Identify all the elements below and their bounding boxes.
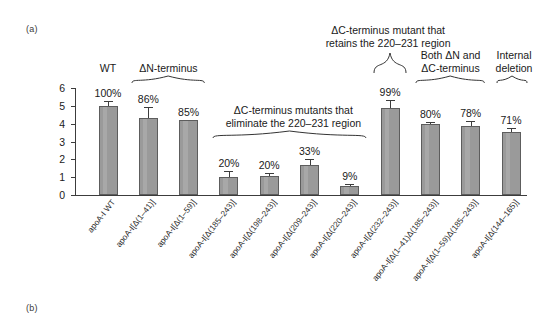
error-bar-cap [386,100,395,101]
annotation-internal-deletion-line2: deletion [496,62,533,74]
annotation-n-terminus-line1: ΔN-terminus [139,62,197,74]
annotation-internal-deletion-line1: Internal [496,49,531,61]
y-axis-tick: 4 [71,124,75,125]
annotation-n-terminus: ΔN-terminus [139,62,197,75]
bar-value-label: 100% [95,87,122,99]
annotation-both-n-and-c-line1: Both ΔN and [421,49,481,61]
error-bar-cap [224,171,233,172]
x-axis-tick-label: apoA-I[Δ(1–59)] [155,198,198,249]
error-bar [148,107,149,118]
y-axis-tick-label: 4 [59,118,65,129]
y-axis-tick-label: 2 [59,154,65,165]
y-axis-tick: 2 [71,159,75,160]
y-axis-tick: 5 [71,106,75,107]
group-brace [132,76,204,85]
annotation-both-n-and-c-line2: ΔC-terminus [421,62,479,74]
y-axis-tick-label: 1 [59,172,65,183]
group-brace [213,131,366,140]
bar [300,165,319,195]
y-axis-tick-label: 0 [59,190,65,201]
panel-label-b: (b) [26,303,38,313]
annotation-wt: WT [100,62,116,75]
bar-value-label: 99% [380,86,401,98]
y-axis-tick: 0 [71,195,75,196]
y-axis-tick-label: 3 [59,136,65,147]
annotation-internal-deletion: Internaldeletion [496,49,533,74]
bar [461,126,480,195]
annotation-c-terminus-eliminate-line1: ΔC-terminus mutants that [234,104,353,116]
bar-value-label: 20% [218,157,239,169]
bar-value-label: 85% [178,106,199,118]
bar [381,108,400,195]
bar [219,177,238,195]
bar-value-label: 86% [138,93,159,105]
y-axis-tick: 6 [71,88,75,89]
bar [260,176,279,195]
y-axis-tick-label: 5 [59,101,65,112]
annotation-wt-line1: WT [100,62,116,74]
annotation-c-terminus-eliminate-line2: eliminate the 220–231 region [226,117,361,129]
x-axis-tick-label: apoA-I WT [86,198,117,234]
error-bar-cap [265,173,274,174]
annotation-c-terminus-retains-line2: retains the 220–231 region [326,37,451,49]
error-bar [390,100,391,108]
error-bar-cap [104,101,113,102]
x-axis-tick-label: apoA-I[Δ(1–41)] [115,198,158,249]
bar-value-label: 33% [299,145,320,157]
group-brace [374,53,406,73]
annotation-c-terminus-retains-line1: ΔC-terminus mutant that [331,24,445,36]
bar [139,118,158,195]
bar-value-label: 9% [342,170,357,182]
bar [502,132,521,195]
y-axis-tick-label: 6 [59,83,65,94]
error-bar-cap [507,128,516,129]
y-axis-tick: 1 [71,177,75,178]
bar-value-label: 78% [460,107,481,119]
annotation-c-terminus-retains: ΔC-terminus mutant thatretains the 220–2… [326,24,451,49]
x-axis-line [75,195,527,196]
error-bar-cap [305,159,314,160]
bar-value-label: 71% [500,114,521,126]
error-bar-cap [466,121,475,122]
panel-label-a: (a) [26,24,38,34]
bar [99,106,118,195]
bar [179,120,198,195]
y-axis-tick: 3 [71,142,75,143]
group-brace [416,76,484,85]
bar [340,186,359,195]
y-axis-line [75,88,76,195]
error-bar-cap [144,107,153,108]
bar-value-label: 80% [420,108,441,120]
error-bar-cap [345,184,354,185]
annotation-c-terminus-eliminate: ΔC-terminus mutants thateliminate the 22… [226,104,361,129]
annotation-both-n-and-c: Both ΔN andΔC-terminus [421,49,481,74]
error-bar-cap [426,122,435,123]
bar-value-label: 20% [259,159,280,171]
bar [421,124,440,195]
group-brace [497,76,527,85]
